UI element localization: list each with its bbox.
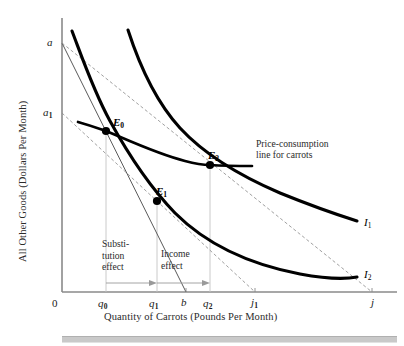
x-tick-q0-sub: 0 <box>104 302 108 311</box>
x-tick-j-text: j <box>371 296 374 308</box>
point-marker-E2 <box>206 161 214 169</box>
point-label-E0: E0 <box>113 116 124 128</box>
x-tick-label-b: b <box>181 296 187 308</box>
x-tick-q1-text: q <box>149 297 155 309</box>
price-consumption-annotation: Price-consumption line for carrots <box>256 139 328 160</box>
x-tick-q1-sub: 1 <box>155 302 159 311</box>
y-tick-a1-text: a <box>43 106 49 118</box>
substitution-effect-annotation: Substi- tution effect <box>102 238 129 273</box>
x-tick-q2-sub: 2 <box>209 302 213 311</box>
y-axis-title: All Other Goods (Dollars Per Month) <box>17 101 29 262</box>
income-effect-line2: effect <box>161 260 190 272</box>
x-tick-q0-text: q <box>98 297 104 309</box>
x-tick-label-q2: q2 <box>203 297 212 309</box>
substitution-effect-arrowhead <box>149 280 157 286</box>
x-axis-title: Quantity of Carrots (Pounds Per Month) <box>104 311 277 323</box>
point-label-E0-sub: 0 <box>120 121 124 130</box>
income-effect-arrowhead <box>202 280 210 286</box>
bottom-divider-bar <box>62 336 397 343</box>
curve-label-I1: I1 <box>364 216 371 228</box>
x-tick-label-q1: q1 <box>149 297 158 309</box>
curve-label-I2: I2 <box>364 268 371 280</box>
y-tick-a-text: a <box>47 36 53 48</box>
income-effect-annotation: Income effect <box>161 248 190 271</box>
x-tick-label-q0: q0 <box>98 297 107 309</box>
x-tick-b-text: b <box>181 296 187 308</box>
substitution-effect-line3: effect <box>102 261 129 273</box>
point-label-E1: E1 <box>156 185 167 197</box>
point-marker-E1 <box>153 197 161 205</box>
x-tick-j1-sub: 1 <box>254 301 258 310</box>
y-tick-label-a1: a1 <box>43 106 52 118</box>
x-tick-q2-text: q <box>203 297 209 309</box>
x-tick-label-0: 0 <box>52 297 58 309</box>
y-tick-label-a: a <box>47 36 53 48</box>
substitution-effect-line1: Substi- <box>102 238 129 250</box>
x-tick-label-j1: j1 <box>251 296 258 308</box>
y-tick-a1-sub: 1 <box>49 111 53 120</box>
price-consumption-line2: line for carrots <box>256 150 328 161</box>
x-tick-label-j: j <box>371 296 374 308</box>
point-label-E2-sub: 2 <box>215 154 219 163</box>
curve-label-I1-sub: 1 <box>368 221 372 230</box>
point-label-E2: E2 <box>208 149 219 161</box>
substitution-effect-line2: tution <box>102 250 129 262</box>
income-effect-line1: Income <box>161 248 190 260</box>
point-label-E1-sub: 1 <box>163 190 167 199</box>
diagram-canvas <box>0 0 404 346</box>
point-marker-E0 <box>102 127 110 135</box>
indifference-curve-figure: All Other Goods (Dollars Per Month) Quan… <box>0 0 404 346</box>
curve-label-I2-sub: 2 <box>368 273 372 282</box>
x-tick-0-text: 0 <box>52 297 58 309</box>
